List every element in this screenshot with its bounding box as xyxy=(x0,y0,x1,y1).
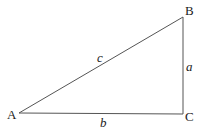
triangle-svg: A B C c a b xyxy=(0,0,204,134)
vertex-label-b: B xyxy=(185,3,194,18)
side-c xyxy=(19,17,183,113)
triangle-diagram: A B C c a b xyxy=(0,0,204,134)
side-label-c: c xyxy=(97,50,103,65)
side-b xyxy=(19,113,183,114)
vertex-label-c: C xyxy=(185,109,194,124)
vertex-label-a: A xyxy=(7,107,17,122)
side-label-a: a xyxy=(186,59,193,74)
side-label-b: b xyxy=(100,115,107,130)
